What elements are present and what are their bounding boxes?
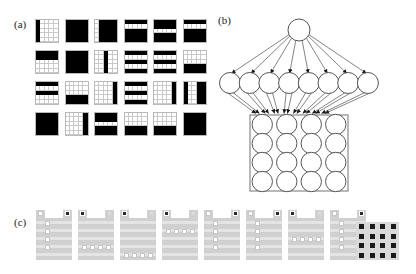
unit-row-square [316,237,321,242]
panel-a-pattern-array [36,20,206,138]
receptive-field-unit [204,210,240,260]
pattern-cell [83,131,87,135]
panel-b-network-diagram [218,14,408,194]
pattern-tile [66,51,88,73]
edge-top-to-hidden-3 [270,38,291,73]
pattern-tile [154,82,176,104]
input-node-12 [326,152,346,172]
unit-column-square [339,245,344,250]
unit-column-square [45,245,50,250]
pattern-tile [95,82,117,104]
pattern-cell [54,38,58,42]
input-node-15 [301,171,321,191]
dot-cell [380,234,385,239]
pattern-tile [184,51,206,73]
dot-cell [359,253,364,258]
unit-top-left-marker [290,211,295,216]
unit-notch [87,210,105,218]
pattern-cell [142,131,146,135]
hidden-node-6 [318,73,339,94]
dot-cell [380,243,385,248]
unit-stripe [204,229,240,232]
unit-notch [255,210,273,218]
unit-stripe [246,221,282,224]
pattern-tile [154,113,176,135]
unit-top-right-marker [317,211,322,216]
input-node-1 [252,114,272,134]
unit-column-square [255,245,260,250]
unit-top-right-marker [149,211,154,216]
unit-column-square [339,229,344,234]
unit-top-right-marker [107,211,112,216]
unit-stripe [246,237,282,240]
pattern-tile [125,82,147,104]
dot-cell [391,224,396,229]
unit-stripe [36,253,72,256]
input-node-9 [252,152,272,172]
hidden-node-3 [259,73,280,94]
edge-top-to-hidden-6 [306,38,327,73]
unit-row-square [140,253,145,258]
unit-top-left-marker [122,211,127,216]
input-node-16 [326,171,346,191]
unit-stripe [78,221,114,224]
pattern-tile [125,20,147,42]
hidden-node-5 [298,73,319,94]
pattern-cell [83,38,87,42]
network-svg [218,14,408,194]
unit-stripe [288,229,324,232]
pattern-cell [113,100,117,104]
dot-cell [359,224,364,229]
unit-stripe [288,253,324,256]
edge-top-to-hidden-4 [290,41,296,74]
unit-row-square [292,237,297,242]
unit-notch [171,210,189,218]
hidden-node-group [220,73,379,94]
unit-stripe [204,253,240,256]
edge-hidden-1-to-input-a [227,93,256,114]
edge-top-to-hidden-7 [308,36,347,73]
unit-stripe [120,221,156,224]
unit-notch [45,210,63,218]
unit-column-square [45,237,50,242]
unit-stripe [120,237,156,240]
pattern-cell [54,100,58,104]
dot-cell [370,243,375,248]
unit-stripe [36,221,72,224]
unit-stripe [78,253,114,256]
pattern-tile [95,51,117,73]
pattern-cell [113,69,117,73]
pattern-cell [172,100,176,104]
unit-column-square [255,221,260,226]
top-node [288,19,310,41]
unit-row-square [124,253,129,258]
dot-array-grid [356,222,399,260]
unit-top-right-marker [275,211,280,216]
panel-a-label: (a) [14,18,26,30]
input-node-6 [277,133,297,153]
input-node-7 [301,133,321,153]
pattern-cell [83,69,87,73]
input-node-10 [277,152,297,172]
unit-column-square [45,221,50,226]
dot-cell [391,253,396,258]
hidden-node-2 [239,73,260,94]
hidden-node-4 [279,73,300,94]
unit-stripe [78,237,114,240]
edge-top-to-hidden-1 [231,35,289,74]
unit-stripe [36,229,72,232]
unit-stripe [204,221,240,224]
unit-row-square [182,229,187,234]
pattern-tile [125,113,147,135]
dot-cell [370,234,375,239]
pattern-tile [184,82,206,104]
receptive-field-unit [36,210,72,260]
pattern-cell [201,131,205,135]
input-node-5 [252,133,272,153]
unit-row-square [106,245,111,250]
input-node-4 [326,114,346,134]
unit-row-square [82,245,87,250]
pattern-tile [125,51,147,73]
pattern-cell [142,38,146,42]
unit-stripe [120,229,156,232]
